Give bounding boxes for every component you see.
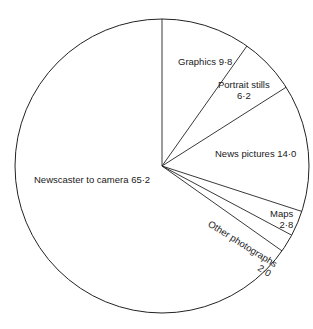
label-maps-name: Maps	[270, 208, 293, 219]
label-portrait-stills: Portrait stills 6·2	[218, 79, 270, 101]
pie-chart	[0, 0, 313, 329]
label-graphics: Graphics 9·8	[178, 56, 232, 67]
label-newscaster-to-camera: Newscaster to camera 65·2	[34, 174, 150, 185]
label-news-pictures: News pictures 14·0	[215, 148, 296, 159]
label-portrait-value: 6·2	[218, 90, 270, 101]
label-maps-value: 2·8	[270, 219, 293, 230]
label-maps: Maps 2·8	[270, 208, 293, 230]
label-portrait-name: Portrait stills	[218, 79, 270, 90]
